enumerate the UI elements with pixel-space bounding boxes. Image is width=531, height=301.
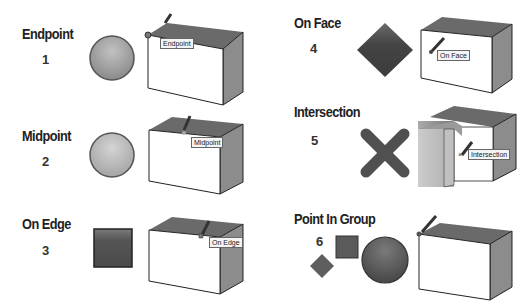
inference-tooltip: Intersection	[468, 149, 510, 160]
inference-tooltip: On Edge	[209, 237, 243, 248]
panel-number: 2	[42, 154, 49, 169]
panel-title: Intersection	[294, 103, 360, 120]
intersecting-box-model: ×	[418, 109, 523, 187]
box-model	[145, 20, 245, 90]
panel-number: 6	[316, 234, 323, 249]
panel-title: Endpoint	[22, 25, 73, 42]
panel-title: Midpoint	[22, 127, 71, 144]
inference-tooltip: On Face	[437, 50, 470, 61]
panel-number: 5	[311, 133, 318, 148]
box-model	[148, 213, 243, 285]
sphere-marker-icon	[88, 34, 136, 82]
box-model	[148, 120, 243, 190]
x-cross-marker-icon	[360, 128, 410, 178]
svg-text:×: ×	[458, 151, 462, 158]
panel-title: Point In Group	[294, 210, 375, 227]
panel-title: On Edge	[22, 215, 71, 232]
panel-number: 1	[42, 52, 49, 67]
sphere-marker-icon	[360, 235, 410, 285]
diamond-marker-icon	[356, 22, 414, 78]
panel-title: On Face	[294, 14, 341, 31]
sphere-marker-icon	[88, 131, 136, 179]
box-model	[420, 15, 512, 83]
square-marker-icon	[93, 228, 133, 268]
panel-number: 4	[310, 41, 317, 56]
small-diamond-marker-icon	[309, 253, 335, 279]
small-square-marker-icon	[335, 235, 359, 259]
inference-tooltip: Endpoint	[160, 38, 194, 49]
inference-tooltip: Midpoint	[191, 137, 223, 148]
box-model	[418, 222, 513, 294]
panel-number: 3	[42, 243, 49, 258]
